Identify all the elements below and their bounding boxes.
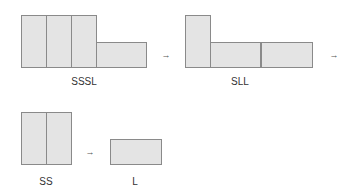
square-tile — [46, 112, 72, 165]
group-label: SSSL — [71, 76, 97, 87]
group-label: SS — [39, 176, 52, 187]
arrow-right-icon: → — [86, 147, 95, 157]
square-tile — [21, 112, 47, 165]
square-tile — [21, 15, 47, 68]
long-tile — [210, 42, 261, 68]
square-tile — [185, 15, 211, 68]
group-label: SLL — [231, 76, 249, 87]
arrow-right-icon: → — [162, 50, 171, 60]
group-label: L — [132, 176, 138, 187]
long-tile — [96, 42, 147, 68]
square-tile — [46, 15, 72, 68]
long-tile — [261, 42, 313, 68]
square-tile — [71, 15, 97, 68]
arrow-right-icon: → — [330, 50, 339, 60]
long-tile — [110, 139, 162, 165]
